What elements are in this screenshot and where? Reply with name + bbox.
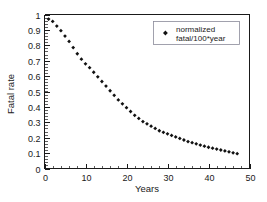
x-tick-label-3: 30 <box>163 173 173 183</box>
y-tick-label-8: 0.8 <box>28 41 41 51</box>
x-tick-label-0: 0 <box>43 173 48 183</box>
fatal-rate-scatter-chart: 00.10.20.30.40.50.60.70.80.91 0102030405… <box>0 0 267 202</box>
y-tick-label-3: 0.3 <box>28 118 41 128</box>
chart-legend: normalized fatal/100*year <box>154 22 240 45</box>
y-tick-label-2: 0.2 <box>28 134 41 144</box>
y-tick-label-9: 0.9 <box>28 26 41 36</box>
y-tick-label-10: 1 <box>35 11 40 21</box>
y-axis-title: Fatal rate <box>5 74 16 114</box>
y-tick-label-0: 0 <box>35 165 40 175</box>
x-axis-title: Years <box>135 183 159 194</box>
x-tick-label-2: 20 <box>122 173 132 183</box>
y-tick-label-1: 0.1 <box>28 149 41 159</box>
y-tick-label-6: 0.6 <box>28 72 41 82</box>
y-tick-label-4: 0.4 <box>28 103 41 113</box>
legend-label-line2: fatal/100*year <box>176 34 226 43</box>
x-tick-label-1: 10 <box>81 173 91 183</box>
legend-label-line1: normalized <box>176 25 215 34</box>
x-tick-label-5: 50 <box>245 173 255 183</box>
chart-figure: 00.10.20.30.40.50.60.70.80.91 0102030405… <box>0 0 267 202</box>
x-tick-label-4: 40 <box>204 173 214 183</box>
y-axis-tick-labels: 00.10.20.30.40.50.60.70.80.91 <box>28 11 41 175</box>
y-tick-label-5: 0.5 <box>28 88 41 98</box>
y-tick-label-7: 0.7 <box>28 57 41 67</box>
